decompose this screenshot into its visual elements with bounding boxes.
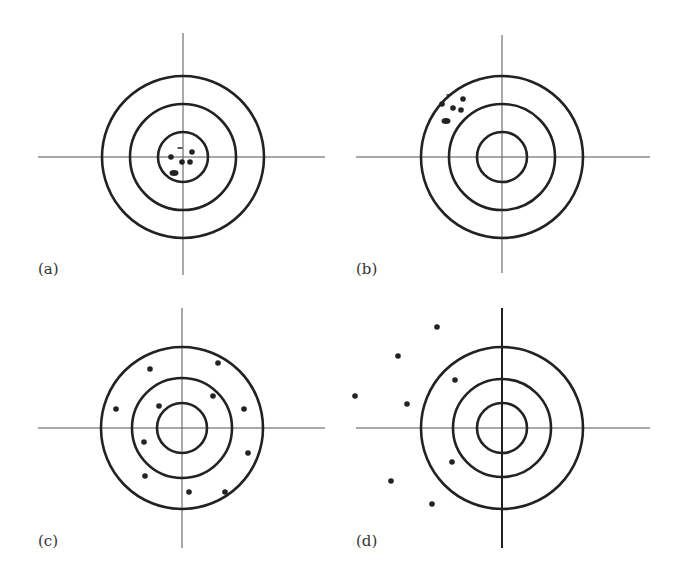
shot-mark [452,377,458,383]
panel-label-a: (a) [38,260,59,278]
target-panel-c [38,308,325,548]
shot-mark [434,324,440,330]
shot-mark [142,473,148,479]
shot-mark [186,489,192,495]
shot-mark [450,105,456,111]
shot-mark [395,353,401,359]
shot-mark [215,360,221,366]
panel-label-d: (d) [356,532,377,550]
shot-mark [241,406,247,412]
panel-label-b: (b) [356,260,377,278]
shot-mark [187,159,193,165]
shot-mark [179,159,185,165]
shot-mark-cluster [170,170,179,176]
target-panel-a [38,33,325,275]
shot-mark [388,478,394,484]
shot-mark [458,107,464,113]
shot-mark [449,459,455,465]
shot-mark [141,439,147,445]
shot-mark [245,450,251,456]
target-panel-d [352,308,650,548]
target-panel-b [356,35,650,273]
shot-mark [189,149,195,155]
shot-mark [352,393,358,399]
shot-mark [147,366,153,372]
shot-mark [156,403,162,409]
shot-mark [460,96,466,102]
shot-mark [222,489,228,495]
shot-mark [113,406,119,412]
shot-mark [439,101,445,107]
shot-mark [168,154,174,160]
target-diagram-figure: (a) (b) (c) (d) [0,0,680,578]
shot-mark-cluster [442,118,451,124]
shot-mark [404,401,410,407]
shot-mark [210,393,216,399]
shot-mark [429,501,435,507]
panel-label-c: (c) [38,532,58,550]
